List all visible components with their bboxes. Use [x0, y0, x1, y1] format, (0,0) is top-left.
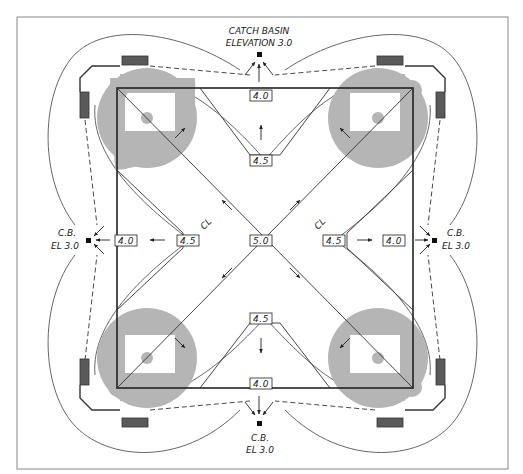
dugout-right-top — [436, 92, 445, 118]
elev-center-text: 5.0 — [253, 236, 269, 246]
elev-left-mid: 4.5 — [177, 235, 199, 246]
catch-basin-right — [432, 238, 437, 243]
elev-top-mid-text: 4.5 — [253, 156, 269, 166]
dugout-top-right — [377, 56, 403, 65]
elev-right-edge-text: 4.0 — [386, 236, 402, 246]
cb-left-line1: C.B. — [58, 228, 76, 238]
elev-top-edge-text: 4.0 — [253, 91, 269, 101]
elev-left-mid-text: 4.5 — [180, 236, 196, 246]
cb-bottom-line1: C.B. — [251, 433, 269, 443]
elev-top-edge: 4.0 — [250, 90, 272, 101]
drainage-plan-diagram: 4.0 4.5 5.0 4.5 4.0 4.0 4.5 4.5 — [0, 0, 523, 474]
catch-basin-bottom — [257, 421, 262, 426]
centerline-mark-left: CL — [198, 216, 213, 231]
elev-right-mid-text: 4.5 — [326, 236, 342, 246]
elev-center: 5.0 — [250, 235, 272, 246]
elev-left-edge-text: 4.0 — [118, 236, 134, 246]
catch-basin-left — [86, 238, 91, 243]
elev-right-mid: 4.5 — [323, 235, 345, 246]
centerline-mark-right: CL — [312, 216, 327, 231]
elev-left-edge: 4.0 — [115, 235, 137, 246]
cb-bottom-line2: EL 3.0 — [246, 445, 274, 455]
cb-right-line1: C.B. — [447, 228, 465, 238]
elev-bottom-mid-text: 4.5 — [253, 314, 269, 324]
cb-top-line2: ELEVATION 3.0 — [226, 38, 293, 48]
catch-basin-top — [257, 52, 262, 57]
elev-right-edge: 4.0 — [383, 235, 405, 246]
dugout-top-left — [122, 56, 148, 65]
cb-top-line1: CATCH BASIN — [229, 26, 290, 36]
elev-bottom-edge-text: 4.0 — [253, 379, 269, 389]
elev-bottom-edge: 4.0 — [250, 378, 272, 389]
dugout-left-bottom — [80, 359, 89, 385]
dugout-left-top — [80, 92, 89, 118]
dugout-bottom-right — [377, 418, 403, 427]
elev-bottom-mid: 4.5 — [250, 313, 272, 324]
dugout-right-bottom — [436, 359, 445, 385]
cb-left-line2: EL 3.0 — [51, 241, 79, 251]
cb-right-line2: EL 3.0 — [442, 241, 470, 251]
elev-top-mid: 4.5 — [250, 155, 272, 166]
dugout-bottom-left — [122, 418, 148, 427]
